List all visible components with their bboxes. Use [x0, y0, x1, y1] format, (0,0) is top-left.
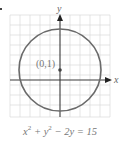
x-axis-label: x — [113, 74, 119, 85]
center-point — [58, 68, 62, 72]
graph-plot: x y (0,1) — [0, 0, 120, 142]
center-point-label: (0,1) — [36, 58, 55, 70]
y-axis-label: y — [56, 3, 62, 14]
x-axis-arrow-icon — [105, 77, 112, 83]
eq-rest: − 2y = 15 — [52, 126, 97, 137]
eq-plus: + — [31, 126, 43, 137]
equation-caption: x2 + y2 − 2y = 15 — [0, 124, 120, 137]
